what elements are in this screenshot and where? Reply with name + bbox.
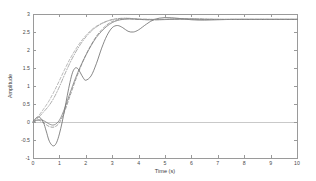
y-axis-label: Amplitude — [7, 74, 13, 98]
curve-response-1 — [33, 18, 297, 146]
curve-response-4 — [33, 18, 297, 122]
figure-canvas: 012345678910 -1-0.500.511.522.53 Time (s… — [0, 0, 316, 181]
data-curves — [0, 0, 316, 181]
x-axis-label: Time (s) — [155, 168, 175, 174]
curve-response-5 — [33, 18, 297, 122]
